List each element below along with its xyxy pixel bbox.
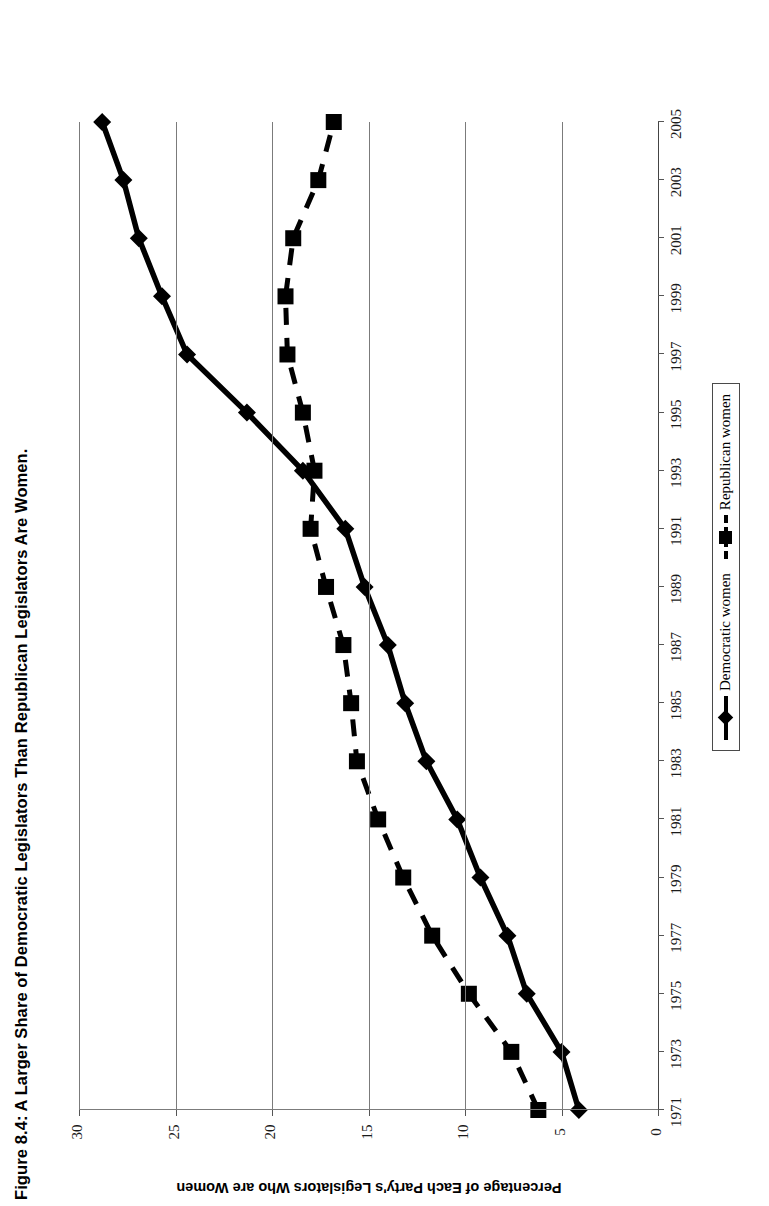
- value-tick-label: 25: [166, 1125, 183, 1140]
- category-axis-tick: [658, 470, 664, 471]
- value-tick-label: 0: [648, 1128, 665, 1136]
- category-tick-label: 1985: [668, 690, 685, 720]
- series-line-republican: [286, 122, 539, 1110]
- data-point-marker-square: [303, 521, 319, 537]
- category-tick-label: 2003: [668, 167, 685, 197]
- category-tick-label: 2001: [668, 225, 685, 255]
- value-axis-tick: [562, 1110, 563, 1116]
- data-point-marker-square: [326, 114, 342, 130]
- data-point-marker-square: [461, 986, 477, 1002]
- category-tick-label: 1997: [668, 341, 685, 371]
- data-point-marker-square: [530, 1102, 546, 1118]
- data-point-marker-square: [285, 230, 301, 246]
- data-point-marker-square: [503, 1044, 519, 1060]
- legend-diamond-icon: [719, 696, 733, 740]
- category-tick-label: 1983: [668, 748, 685, 778]
- category-axis-tick: [658, 1051, 664, 1052]
- category-tick-label: 1991: [668, 516, 685, 546]
- data-point-marker-square: [279, 346, 295, 362]
- value-gridline: [658, 122, 659, 1110]
- value-gridline: [562, 122, 563, 1110]
- category-tick-label: 1973: [668, 1039, 685, 1069]
- data-point-marker-square: [370, 811, 386, 827]
- rotated-figure-container: Figure 8.4: A Larger Share of Democratic…: [0, 0, 769, 1206]
- value-axis-tick: [465, 1110, 466, 1116]
- category-axis-tick: [658, 760, 664, 761]
- category-axis-tick: [658, 179, 664, 180]
- value-axis-tick: [79, 1110, 80, 1116]
- legend-square-icon: [719, 515, 733, 559]
- category-axis-tick: [658, 412, 664, 413]
- category-axis-tick: [658, 644, 664, 645]
- category-tick-label: 1989: [668, 574, 685, 604]
- category-axis-tick: [658, 877, 664, 878]
- category-axis-tick: [658, 935, 664, 936]
- data-point-marker-square: [343, 695, 359, 711]
- category-axis-tick: [658, 818, 664, 819]
- data-point-marker-square: [318, 579, 334, 595]
- legend: Democratic womenRepublican women: [712, 383, 740, 751]
- category-tick-label: 1995: [668, 400, 685, 430]
- data-point-marker-diamond: [93, 113, 111, 131]
- value-gridline: [272, 122, 273, 1110]
- legend-label: Republican women: [717, 394, 734, 510]
- category-tick-label: 1977: [668, 923, 685, 953]
- category-axis-tick: [658, 528, 664, 529]
- data-point-marker-diamond: [396, 694, 414, 712]
- value-gridline: [79, 122, 80, 1110]
- data-point-marker-square: [349, 753, 365, 769]
- figure: Figure 8.4: A Larger Share of Democratic…: [0, 0, 769, 1206]
- category-tick-label: 1987: [668, 632, 685, 662]
- data-point-marker-square: [395, 870, 411, 886]
- data-point-marker-square: [424, 928, 440, 944]
- data-point-marker-diamond: [471, 869, 489, 887]
- value-gridline: [176, 122, 177, 1110]
- value-gridline: [465, 122, 466, 1110]
- category-axis-tick: [658, 353, 664, 354]
- category-axis-tick: [658, 295, 664, 296]
- data-point-marker-diamond: [130, 229, 148, 247]
- value-tick-label: 10: [455, 1125, 472, 1140]
- category-tick-label: 1999: [668, 283, 685, 313]
- category-axis-tick: [658, 702, 664, 703]
- data-point-marker-square: [310, 172, 326, 188]
- category-tick-label: 1993: [668, 458, 685, 488]
- data-point-marker-diamond: [153, 287, 171, 305]
- value-tick-label: 20: [262, 1125, 279, 1140]
- category-tick-label: 1975: [668, 981, 685, 1011]
- value-axis-tick: [369, 1110, 370, 1116]
- series-layer: [0, 0, 769, 1206]
- value-tick-label: 15: [359, 1125, 376, 1140]
- category-tick-label: 1979: [668, 865, 685, 895]
- category-tick-label: 1971: [668, 1097, 685, 1127]
- value-tick-label: 5: [552, 1128, 569, 1136]
- category-axis-tick: [658, 993, 664, 994]
- data-point-marker-square: [335, 637, 351, 653]
- category-axis-tick: [658, 586, 664, 587]
- data-point-marker-square: [306, 463, 322, 479]
- series-line-democratic: [102, 122, 579, 1110]
- value-axis-tick: [658, 1110, 659, 1116]
- category-tick-label: 1981: [668, 806, 685, 836]
- value-tick-label: 30: [69, 1125, 86, 1140]
- category-axis-tick: [658, 121, 664, 122]
- legend-entry[interactable]: Republican women: [717, 394, 734, 559]
- data-point-marker-diamond: [570, 1101, 588, 1119]
- legend-label: Democratic women: [717, 573, 734, 691]
- data-point-marker-square: [295, 405, 311, 421]
- value-axis-tick: [272, 1110, 273, 1116]
- category-tick-label: 2005: [668, 109, 685, 139]
- data-point-marker-square: [278, 288, 294, 304]
- legend-entry[interactable]: Democratic women: [717, 573, 734, 740]
- data-point-marker-diamond: [356, 578, 374, 596]
- data-point-marker-diamond: [498, 927, 516, 945]
- value-gridline: [369, 122, 370, 1110]
- data-point-marker-diamond: [114, 171, 132, 189]
- value-axis-title: Percentage of Each Party's Legislators W…: [176, 1180, 561, 1196]
- value-axis-tick: [176, 1110, 177, 1116]
- category-axis-tick: [658, 237, 664, 238]
- data-point-marker-diamond: [379, 636, 397, 654]
